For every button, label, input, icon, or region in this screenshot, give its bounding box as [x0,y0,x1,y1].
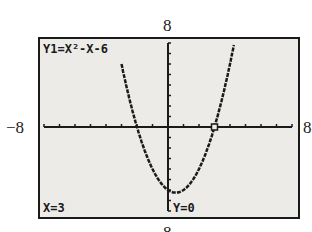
xmax-label: 8 [303,119,312,136]
ymin-label: 8 [163,224,172,232]
equation-label: Y1=X²-X-6 [43,43,108,55]
xmin-label: −8 [6,119,24,136]
trace-y-label: Y=0 [173,202,195,214]
trace-x-label: X=3 [43,202,65,214]
trace-cursor[interactable] [212,124,218,130]
graph-plot [40,39,298,217]
ymax-label: 8 [163,17,172,34]
calculator-graph-screen: Y1=X²-X-6 X=3 Y=0 [38,37,300,219]
function-curve [122,45,234,193]
